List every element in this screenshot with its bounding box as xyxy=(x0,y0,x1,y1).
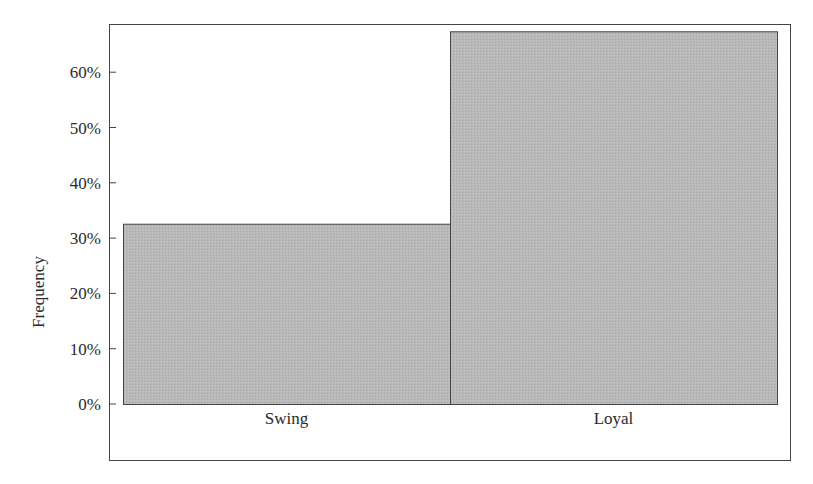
y-tick-label: 40% xyxy=(70,174,101,193)
bar-loyal xyxy=(451,32,778,405)
y-axis-title: Frequency xyxy=(29,256,48,328)
y-tick-label: 0% xyxy=(78,395,101,414)
bar-swing xyxy=(124,224,451,404)
y-tick-label: 10% xyxy=(70,340,101,359)
y-tick-label: 20% xyxy=(70,284,101,303)
y-tick-label: 60% xyxy=(70,63,101,82)
x-axis-labels: SwingLoyal xyxy=(265,409,634,428)
x-category-label: Loyal xyxy=(594,409,634,428)
histogram-chart: 0%10%20%30%40%50%60% SwingLoyal Frequenc… xyxy=(0,0,813,484)
x-category-label: Swing xyxy=(265,409,309,428)
y-tick-label: 30% xyxy=(70,229,101,248)
y-tick-label: 50% xyxy=(70,119,101,138)
bars xyxy=(124,32,778,405)
